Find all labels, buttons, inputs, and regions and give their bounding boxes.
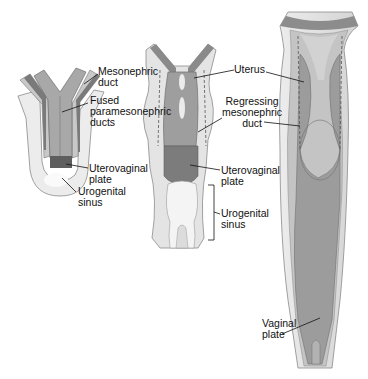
label-urogenital-sinus-middle: Urogenital sinus xyxy=(221,208,269,230)
uterovaginal-plate-middle xyxy=(164,146,198,184)
mullerian-duct-development-diagram xyxy=(0,0,368,379)
label-uterovaginal-plate-middle: Uterovaginal plate xyxy=(221,165,280,187)
uterovaginal-plate xyxy=(50,156,72,168)
label-regressing-mesonephric-duct: Regressing mesonephric duct xyxy=(222,96,282,129)
label-uterovaginal-plate-early: Uterovaginal plate xyxy=(89,163,148,185)
label-vaginal-plate: Vaginal plate xyxy=(262,318,296,340)
label-mesonephric-duct: Mesonephric duct xyxy=(98,66,158,88)
label-uterus: Uterus xyxy=(234,64,265,75)
stage-late-illustration xyxy=(264,12,358,368)
label-urogenital-sinus-early: Urogenital sinus xyxy=(78,186,126,208)
label-fused-paramesonephric-ducts: Fused paramesonephric ducts xyxy=(90,95,171,128)
